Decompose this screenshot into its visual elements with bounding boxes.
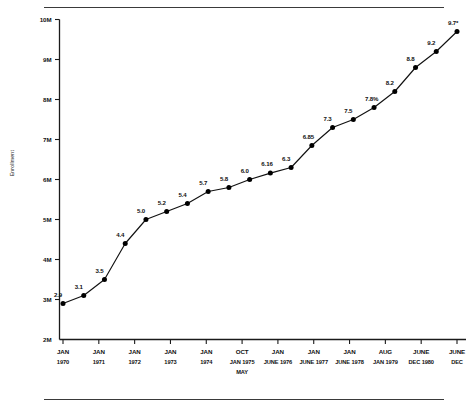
x-axis-tick-label-primary: JAN <box>43 348 83 355</box>
x-axis-tick-label-primary: JAN <box>115 348 155 355</box>
y-axis-tick-label: 7M <box>26 136 52 143</box>
data-point-marker <box>247 177 252 182</box>
data-point-label: 3.1 <box>75 283 83 290</box>
data-point-label: 5.4 <box>178 191 186 198</box>
data-point-label: 2.9 <box>54 291 62 298</box>
data-point-marker <box>206 189 211 194</box>
data-point-label: 5.2 <box>158 199 166 206</box>
data-point-label: 7.8% <box>365 95 378 102</box>
data-point-label: 5.0 <box>137 207 145 214</box>
data-point-marker <box>164 209 169 214</box>
data-point-marker <box>455 29 460 34</box>
data-point-label: 7.3 <box>324 115 332 122</box>
data-point-label: 6.85 <box>303 133 314 140</box>
axes-group <box>55 20 466 345</box>
y-axis-tick-label: 2M <box>26 336 52 343</box>
y-axis-tick-label: 9M <box>26 56 52 63</box>
data-point-label: 6.0 <box>241 167 249 174</box>
x-axis-tick-label-primary: OCT <box>222 348 262 355</box>
data-point-label: 8.2 <box>386 79 394 86</box>
data-point-label: 5.8 <box>220 175 228 182</box>
data-point-marker <box>143 217 148 222</box>
data-point-markers <box>61 29 460 306</box>
data-point-label: 9.2 <box>427 39 435 46</box>
data-point-label: 4.4 <box>116 231 124 238</box>
data-point-marker <box>392 89 397 94</box>
data-point-marker <box>123 241 128 246</box>
data-point-label: 7.5 <box>344 107 352 114</box>
x-axis-tick-label-primary: JAN <box>330 348 370 355</box>
data-point-marker <box>268 171 273 176</box>
data-point-label: 6.3 <box>282 155 290 162</box>
y-axis-tick-label: 5M <box>26 216 52 223</box>
y-axis-tick-label: 3M <box>26 296 52 303</box>
data-point-marker <box>61 301 66 306</box>
y-axis-tick-label: 6M <box>26 176 52 183</box>
enrollment-line-chart: Enrollment 2M3M4M5M6M7M8M9M10M JAN1970JA… <box>0 0 473 412</box>
y-axis-tick-label: 4M <box>26 256 52 263</box>
data-point-marker <box>102 277 107 282</box>
data-point-label: 3.5 <box>95 267 103 274</box>
data-point-marker <box>185 201 190 206</box>
x-axis-tick-label-primary: JAN <box>186 348 226 355</box>
x-axis-tick-label-primary: JAN <box>79 348 119 355</box>
y-axis-tick-label: 8M <box>26 96 52 103</box>
y-axis-tick-label: 10M <box>26 16 52 23</box>
x-axis-tick-label-primary: JUNE <box>401 348 441 355</box>
data-point-label: 5.7 <box>199 179 207 186</box>
data-point-marker <box>434 49 439 54</box>
data-point-marker <box>289 165 294 170</box>
data-point-marker <box>309 143 314 148</box>
series-polyline <box>63 32 457 304</box>
data-point-label: 6.16 <box>261 160 272 167</box>
x-axis-tick-label-primary: JUNE <box>437 348 473 355</box>
data-point-marker <box>226 185 231 190</box>
data-point-marker <box>413 65 418 70</box>
data-point-label: 8.8 <box>407 55 415 62</box>
x-axis-tick-label-primary: AUG <box>365 348 405 355</box>
x-axis-tick-label-primary: JAN <box>150 348 190 355</box>
data-point-label: 9.7* <box>448 19 458 26</box>
chart-page: Enrollment 2M3M4M5M6M7M8M9M10M JAN1970JA… <box>0 0 473 412</box>
x-axis-tick-label-primary: JAN <box>294 348 334 355</box>
data-point-marker <box>351 117 356 122</box>
x-axis-tick-label-secondary: DEC <box>435 359 473 365</box>
data-point-marker <box>330 125 335 130</box>
data-series-line <box>63 32 457 304</box>
x-axis-tick-label-tertiary: MAY <box>220 369 264 375</box>
data-point-marker <box>81 293 86 298</box>
x-axis-tick-label-primary: JAN <box>258 348 298 355</box>
data-point-marker <box>372 105 377 110</box>
